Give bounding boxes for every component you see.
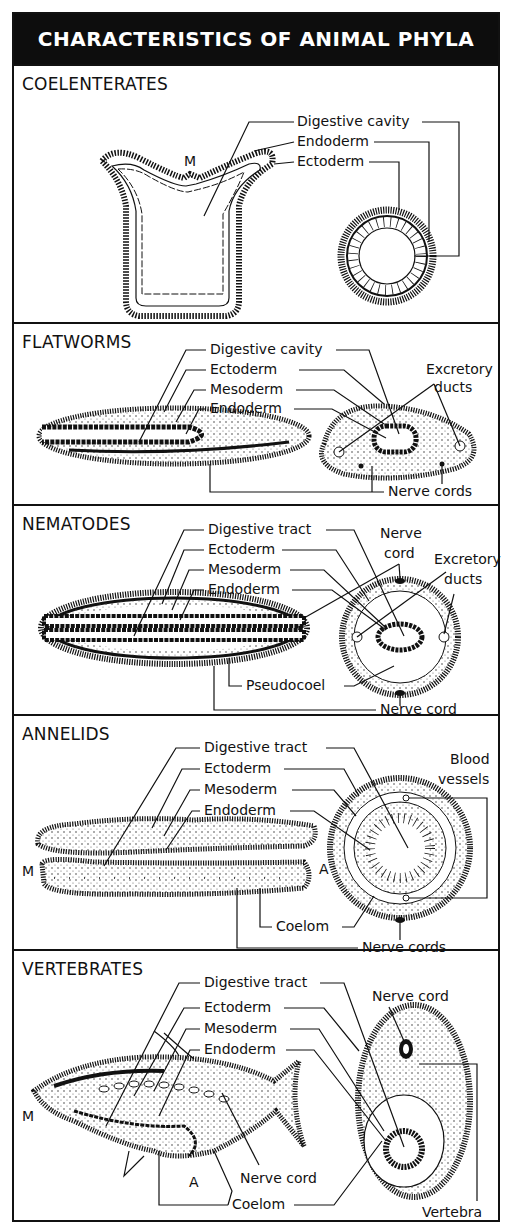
endoderm-outline — [112, 163, 260, 306]
coelenterate-diagram: M Digestive cavity Endoderm Ectoderm — [14, 66, 502, 324]
label-coelom: Coelom — [232, 1196, 285, 1212]
label-ectoderm: Ectoderm — [297, 153, 364, 169]
label-ectoderm: Ectoderm — [204, 760, 271, 776]
label-endoderm: Endoderm — [297, 133, 369, 149]
gut-lower — [44, 630, 304, 640]
label-pseudocoel: Pseudocoel — [246, 677, 325, 693]
figure-title: CHARACTERISTICS OF ANIMAL PHYLA — [14, 14, 498, 64]
label-coelom: Coelom — [276, 918, 329, 934]
label-vessels: vessels — [438, 771, 489, 787]
blood-vessel — [403, 895, 409, 901]
label-vertebra: Vertebra — [422, 1204, 482, 1220]
label-excretory: Excretory — [434, 551, 501, 567]
label-endoderm: Endoderm — [210, 400, 282, 416]
label-nerve-cords: Nerve cords — [388, 483, 472, 499]
vertebrate-diagram: M A Digestive tract Ectoderm Mesoderm En… — [14, 951, 502, 1224]
label-mesoderm: Mesoderm — [208, 561, 281, 577]
upper-body — [38, 819, 316, 853]
label-endoderm: Endoderm — [204, 1041, 276, 1057]
leader-line — [299, 370, 384, 404]
label-endoderm: Endoderm — [208, 581, 280, 597]
leader-line — [274, 162, 294, 164]
label-ectoderm: Ectoderm — [210, 361, 277, 377]
leader-line — [399, 564, 400, 578]
endoderm-cells — [118, 169, 244, 294]
label-mesoderm: Mesoderm — [204, 1020, 277, 1036]
leader-line — [282, 550, 369, 601]
pelvic-fin — [124, 1151, 144, 1176]
marker-anus: A — [319, 861, 329, 877]
leader-line — [260, 888, 272, 927]
label-ducts: ducts — [444, 571, 482, 587]
gut-cross-section — [374, 426, 416, 452]
flatworm-diagram: Digestive cavity Ectoderm Mesoderm Endod… — [14, 324, 502, 506]
label-digestive-cavity: Digestive cavity — [210, 341, 322, 357]
label-excretory: Excretory — [426, 361, 493, 377]
leader-line — [204, 122, 294, 216]
gut-endoderm — [370, 818, 430, 878]
nerve-cord-dot — [359, 464, 364, 469]
ectoderm-outline — [102, 152, 273, 316]
label-endoderm: Endoderm — [204, 802, 276, 818]
gut-cross-section — [386, 1131, 422, 1167]
dorsal-nerve-cord — [395, 578, 405, 584]
label-nerve-cord-lower: Nerve cord — [240, 1170, 317, 1186]
marker-anus: A — [189, 1174, 199, 1190]
nematode-diagram: Digestive tract Ectoderm Mesoderm Endode… — [14, 506, 502, 716]
ventral-nerve-cord — [395, 690, 405, 696]
panel-flatworms: FLATWORMS Digestive cavity Ectoderm Meso… — [14, 322, 498, 504]
leader-line — [284, 769, 359, 796]
leader-line — [214, 1151, 232, 1205]
label-ducts: ducts — [434, 379, 472, 395]
marker-mouth: M — [22, 1108, 34, 1124]
figure-frame: CHARACTERISTICS OF ANIMAL PHYLA COELENTE… — [12, 12, 500, 1222]
annelid-diagram: M A Digestive tract Ectoderm Mesoderm En… — [14, 716, 502, 951]
nerve-cord-canal — [403, 1044, 409, 1054]
blood-vessel — [403, 795, 409, 801]
label-digestive-tract: Digestive tract — [204, 739, 308, 755]
leader-line — [254, 142, 294, 151]
cavity-outline — [359, 228, 415, 284]
label-nerve-cord-upper: Nerve cord — [372, 988, 449, 1004]
label-digestive-tract: Digestive tract — [204, 974, 308, 990]
label-ectoderm: Ectoderm — [208, 541, 275, 557]
lower-body — [42, 859, 309, 894]
fish-body — [34, 1057, 304, 1156]
label-cord: cord — [384, 545, 415, 561]
marker-mouth: M — [22, 863, 34, 879]
leader-line — [369, 162, 399, 210]
label-mesoderm: Mesoderm — [210, 381, 283, 397]
marker-mouth: M — [184, 153, 196, 169]
label-digestive-tract: Digestive tract — [208, 521, 312, 537]
panel-vertebrates: VERTEBRATES M A Digestive tract Ectoderm… — [14, 949, 498, 1222]
nerve-cord — [395, 917, 405, 923]
label-digestive-cavity: Digestive cavity — [297, 113, 409, 129]
panel-nematodes: NEMATODES Digestive tract Ectoderm Mesod… — [14, 504, 498, 714]
label-blood: Blood — [450, 751, 490, 767]
figure-title-text: CHARACTERISTICS OF ANIMAL PHYLA — [38, 27, 474, 51]
label-ectoderm: Ectoderm — [204, 999, 271, 1015]
panel-coelenterates: COELENTERATES M Digestive cavity Endoder… — [14, 64, 498, 322]
gut — [42, 427, 202, 442]
label-mesoderm: Mesoderm — [204, 781, 277, 797]
gut-upper — [44, 616, 304, 626]
label-nerve: Nerve — [380, 525, 422, 541]
endoderm-ring — [353, 222, 421, 290]
panel-annelids: ANNELIDS M A Digestive tract Ectoderm Me… — [14, 714, 498, 949]
